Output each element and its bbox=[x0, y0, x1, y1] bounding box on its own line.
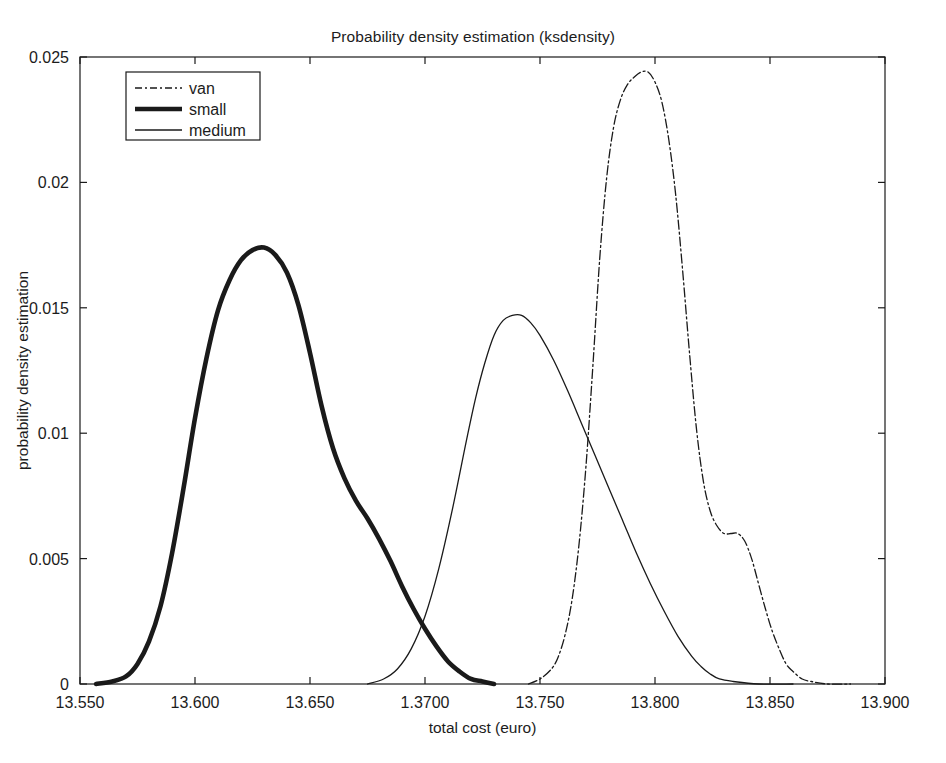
y-tick-label-4: 0.02 bbox=[38, 174, 69, 191]
x-tick-label-5: 13.800 bbox=[631, 694, 680, 711]
x-tick-label-3: 1.3700 bbox=[401, 694, 450, 711]
x-tick-label-1: 13.600 bbox=[171, 694, 220, 711]
y-tick-label-1: 0.005 bbox=[29, 551, 69, 568]
chart-figure: Probability density estimation (ksdensit… bbox=[0, 0, 946, 763]
y-tick-label-5: 0.025 bbox=[29, 49, 69, 66]
legend-label-medium: medium bbox=[189, 122, 246, 139]
legend-label-small: small bbox=[189, 101, 226, 118]
y-axis-title: probability density estimation bbox=[14, 271, 31, 470]
series-group bbox=[96, 71, 850, 684]
x-axis-title: total cost (euro) bbox=[429, 719, 537, 736]
legend-group: vansmallmedium bbox=[126, 72, 260, 140]
y-tick-label-3: 0.015 bbox=[29, 300, 69, 317]
axis-labels-group: total cost (euro)probability density est… bbox=[14, 271, 536, 736]
series-line-small bbox=[96, 247, 494, 684]
y-tick-label-2: 0.01 bbox=[38, 425, 69, 442]
x-tick-label-6: 13.850 bbox=[746, 694, 795, 711]
x-tick-label-4: 13.750 bbox=[516, 694, 565, 711]
x-tick-label-7: 13.900 bbox=[861, 694, 910, 711]
x-tick-label-0: 13.550 bbox=[56, 694, 105, 711]
series-line-van bbox=[529, 71, 851, 684]
series-line-medium bbox=[368, 315, 794, 685]
plot-area: 13.55013.60013.6501.370013.75013.80013.8… bbox=[0, 0, 946, 763]
legend-label-van: van bbox=[189, 80, 215, 97]
x-tick-label-2: 13.650 bbox=[286, 694, 335, 711]
y-tick-label-0: 0 bbox=[60, 676, 69, 693]
